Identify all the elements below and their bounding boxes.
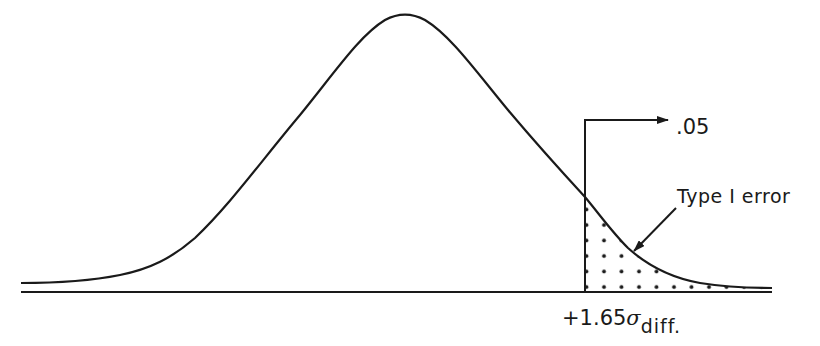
type-one-error-arrow [634,208,676,251]
critical-value-number: +1.65 [562,306,626,330]
normal-curve-diagram [0,0,820,346]
type-one-error-label: Type I error [677,185,790,207]
alpha-level-label: .05 [676,115,709,139]
critical-value-label: +1.65σdiff. [562,306,681,330]
sigma-symbol: σ [626,306,640,330]
normal-curve [21,15,772,288]
critical-value-subscript: diff. [641,315,681,337]
